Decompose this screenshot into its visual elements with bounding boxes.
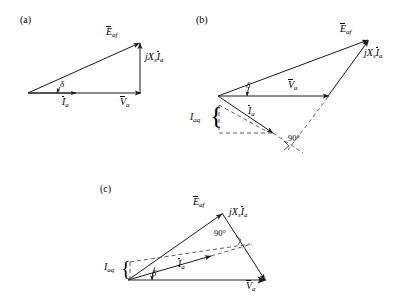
panel-c-label: (c) bbox=[100, 183, 111, 194]
panel-a-eaf-label: Eaf bbox=[106, 27, 118, 39]
panel-a-va-label: Va bbox=[120, 97, 130, 109]
panel-b-jxsia-vector bbox=[328, 41, 369, 97]
panel-c-iaq-label: Iaq bbox=[104, 262, 114, 274]
panel-b-brace: { bbox=[210, 103, 222, 129]
panel-b-iaq-label: Iaq bbox=[190, 112, 200, 124]
phasor-diagram-figure: (a) Eaf jXsIa Ia Va δ (b) Eaf jXsIa Va I… bbox=[0, 0, 407, 298]
panel-b-ia-vector bbox=[218, 96, 273, 133]
panel-b-label: (b) bbox=[196, 14, 208, 25]
panel-b-delta-label: δ bbox=[246, 80, 250, 90]
panel-b-right-angle-label: 90° bbox=[288, 133, 300, 143]
panel-b-box-top-dashed bbox=[219, 105, 268, 132]
panel-c-box-top-dashed bbox=[130, 244, 250, 262]
panel-c-jxsia-label: jXsIa bbox=[229, 207, 247, 219]
panel-c-eaf-vector bbox=[128, 214, 222, 280]
panel-a-ia-label: Ia bbox=[62, 97, 69, 109]
diagram-canvas bbox=[0, 0, 407, 298]
panel-c-right-angle-mark bbox=[236, 236, 241, 245]
panel-a-label: (a) bbox=[20, 14, 31, 25]
panel-b-jxsia-label: jXsIa bbox=[364, 48, 382, 60]
panel-c-delta-label: δ bbox=[152, 268, 156, 278]
panel-a-jxsia-label: jXsIa bbox=[145, 52, 163, 64]
panel-a-geometry bbox=[28, 43, 141, 93]
panel-b-va-label: Va bbox=[288, 80, 298, 92]
panel-c-va-label: Va bbox=[246, 281, 256, 293]
panel-b-eaf-label: Eaf bbox=[340, 24, 352, 36]
panel-c-right-angle-label: 90° bbox=[214, 228, 226, 238]
panel-a-eaf-vector bbox=[28, 43, 140, 93]
panel-c-brace: { bbox=[121, 258, 131, 278]
panel-c-geometry bbox=[128, 213, 266, 280]
panel-a-delta-label: δ bbox=[60, 79, 64, 89]
panel-c-jxsia-vector bbox=[222, 213, 265, 280]
panel-c-ia-vector bbox=[128, 256, 211, 280]
panel-b-ia-label: Ia bbox=[248, 106, 255, 118]
panel-c-eaf-label: Eaf bbox=[193, 197, 205, 209]
panel-c-ia-label: Ia bbox=[178, 259, 185, 271]
